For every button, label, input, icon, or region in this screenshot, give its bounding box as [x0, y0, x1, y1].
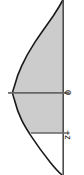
tick-label-lower-z: −z: [63, 130, 72, 140]
tick-label-mean: 0: [63, 90, 72, 95]
normal-curve-figure: 0 −z: [0, 0, 84, 175]
normal-distribution-plot: [0, 0, 84, 175]
shaded-area-region: [12, 0, 63, 133]
